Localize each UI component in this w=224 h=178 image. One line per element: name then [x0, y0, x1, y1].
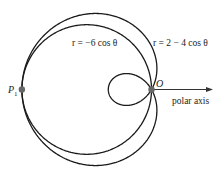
arrow-head-icon	[206, 87, 213, 92]
point-origin	[148, 86, 154, 92]
polar-curves-diagram: r = −6 cos θ r = 2 − 4 cos θ P1 O polar …	[0, 0, 224, 178]
p1-letter: P	[7, 84, 14, 95]
limacon-curve	[22, 13, 157, 165]
p1-subscript: 1	[14, 90, 18, 98]
circle-equation-label: r = −6 cos θ	[72, 38, 118, 48]
origin-label: O	[156, 78, 163, 89]
limacon-equation-label: r = 2 − 4 cos θ	[153, 38, 208, 48]
point-p1	[19, 86, 25, 92]
point-p1-label: P1	[7, 84, 18, 98]
polar-axis-label: polar axis	[172, 96, 210, 106]
